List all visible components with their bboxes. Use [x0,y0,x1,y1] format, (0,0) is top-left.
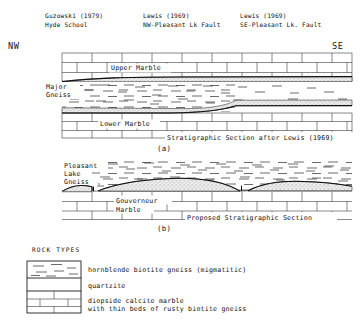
stratigraphic-cross-section-figure: Guzowski (1979) Hyde School Lewis (1969)… [0,0,361,321]
unit-label-gneiss: Gneiss [46,91,71,99]
header-source-1: Lewis (1969) [143,12,190,19]
legend-label-gneiss: hornblende biotite gneiss (migmatitic) [88,266,246,274]
legend-title: ROCK TYPES [32,246,80,253]
header-source-0: Guzowski (1979) [45,12,103,19]
header-locality-0: Hyde School [45,21,88,29]
section-a-caption: Stratigraphic Section after Lewis (1969) [167,134,334,142]
section-a-panel-label: (a) [157,144,171,153]
unit-label-gouverneur: Gouverneur [116,197,158,205]
unit-label-lower-marble: Lower Marble [100,120,150,128]
section-b-caption: Proposed Stratigraphic Section [187,214,312,222]
unit-label-pleasant: Pleasant [64,162,97,170]
unit-label-gneiss-b: Gneiss [64,178,89,186]
header-locality-2: SE-Pleasant Lk. Fault [240,21,322,28]
orientation-label-se: SE [332,41,344,51]
legend-label-marble-sub: with thin beds of rusty biotite gneiss [88,305,246,313]
unit-label-upper-marble: Upper Marble [111,64,161,72]
legend-label-marble: diopside calcite marble [88,297,184,305]
header-source-2: Lewis (1969) [240,12,287,19]
orientation-label-nw: NW [8,41,20,51]
legend-label-quartzite: quartzite [88,282,126,290]
section-b-panel-label: (b) [157,224,171,233]
header-locality-1: NW-Pleasant Lk Fault [143,21,221,28]
unit-label-marble-b: Marble [116,206,141,214]
unit-label-major: Major [46,83,67,91]
unit-label-lake: Lake [64,170,81,178]
column-headers: Guzowski (1979) Hyde School Lewis (1969)… [45,12,322,29]
